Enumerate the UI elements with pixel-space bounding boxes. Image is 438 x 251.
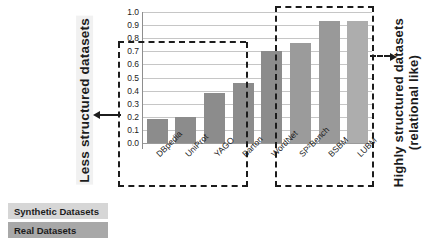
y-tick-label: 0.9 [127,20,139,30]
annotation-highly-structured: Highly structured datasets (relational l… [392,18,421,187]
legend-item: Real Datasets [8,222,108,238]
legend-item-label: Real Datasets [14,225,76,236]
legend-item-label: Synthetic Datasets [14,206,99,217]
y-tick-label: 1.0 [127,7,139,17]
annotation-highly-structured-line2: (relational like) [407,18,422,187]
legend-item: Synthetic Datasets [8,203,108,219]
annotation-highly-structured-line1: Highly structured datasets [391,18,406,187]
chart-figure: Less structured datasets Highly structur… [0,0,438,251]
group-box-less-structured [118,42,248,187]
group-box-highly-structured [275,6,374,187]
legend: Synthetic DatasetsReal Datasets [8,203,108,241]
annotation-less-structured: Less structured datasets [76,16,93,185]
